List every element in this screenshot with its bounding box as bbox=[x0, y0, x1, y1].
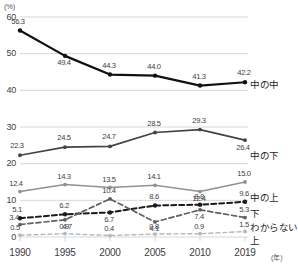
data-label-naka_no_ue-1995: 14.3 bbox=[51, 172, 77, 181]
data-label-shimo-1995: 6.2 bbox=[51, 201, 77, 210]
y-tick-20: 20 bbox=[0, 158, 16, 168]
data-label-naka_no_shimo-1990: 22.3 bbox=[4, 141, 30, 150]
x-tick-2019: 2019 bbox=[224, 247, 266, 258]
data-label-ue-1990: 0.5 bbox=[2, 223, 28, 232]
x-tick-1990: 1990 bbox=[0, 247, 41, 258]
y-tick-30: 30 bbox=[0, 122, 16, 132]
data-label-naka_no_shimo-2010: 29.3 bbox=[186, 116, 212, 125]
data-label-wakaranai-2010: 7.4 bbox=[186, 212, 212, 221]
series-label-naka-no-naka: 中の中 bbox=[250, 77, 279, 91]
data-label-naka_no_ue-2019: 15.0 bbox=[231, 169, 257, 178]
y-tick-40: 40 bbox=[0, 85, 16, 95]
data-label-shimo-2005: 8.6 bbox=[141, 192, 167, 201]
series-label-wakaranai: わからない bbox=[250, 220, 298, 234]
data-label-ue-1995: 0.9 bbox=[51, 222, 77, 231]
x-tick-2000: 2000 bbox=[89, 247, 131, 258]
x-axis-ticks bbox=[20, 237, 245, 241]
data-label-naka_no_naka-1990: 56.3 bbox=[5, 17, 31, 26]
data-label-shimo-2010: 8.8 bbox=[186, 192, 212, 201]
x-tick-2010: 2010 bbox=[179, 247, 221, 258]
line-chart-figure: (%) (年) 0 10 20 30 40 50 60 1990 1995 20… bbox=[0, 0, 298, 265]
data-label-naka_no_ue-2000: 13.5 bbox=[96, 175, 122, 184]
data-label-wakaranai-1990: 3.4 bbox=[1, 213, 27, 222]
data-label-ue-2000: 0.4 bbox=[96, 224, 122, 233]
y-tick-10: 10 bbox=[0, 195, 16, 205]
data-label-naka_no_naka-2019: 42.2 bbox=[231, 68, 257, 77]
data-label-naka_no_shimo-2000: 24.7 bbox=[96, 132, 122, 141]
series-label-ue: 上 bbox=[250, 233, 260, 247]
data-label-naka_no_naka-2000: 44.3 bbox=[96, 61, 122, 70]
x-tick-1995: 1995 bbox=[44, 247, 86, 258]
data-label-naka_no_naka-2005: 44.0 bbox=[141, 62, 167, 71]
data-label-shimo-2019: 9.6 bbox=[231, 189, 257, 198]
data-label-ue-2005: 0.8 bbox=[141, 222, 167, 231]
data-label-naka_no_ue-2005: 14.1 bbox=[141, 172, 167, 181]
data-label-naka_no_shimo-2019: 26.4 bbox=[230, 143, 256, 152]
y-tick-50: 50 bbox=[0, 48, 16, 58]
y-tick-0: 0 bbox=[0, 232, 16, 242]
data-label-naka_no_shimo-2005: 28.5 bbox=[141, 119, 167, 128]
data-label-naka_no_naka-2010: 41.3 bbox=[186, 72, 212, 81]
data-label-naka_no_shimo-1995: 24.5 bbox=[51, 133, 77, 142]
x-tick-2005: 2005 bbox=[134, 247, 176, 258]
data-label-ue-2019: 1.5 bbox=[231, 220, 257, 229]
data-label-naka_no_naka-1995: 49.4 bbox=[51, 58, 77, 67]
data-label-wakaranai-2019: 5.3 bbox=[231, 205, 257, 214]
data-label-wakaranai-2000: 10.4 bbox=[96, 186, 122, 195]
data-label-ue-2010: 0.9 bbox=[186, 222, 212, 231]
data-label-naka_no_ue-1990: 12.4 bbox=[3, 179, 29, 188]
